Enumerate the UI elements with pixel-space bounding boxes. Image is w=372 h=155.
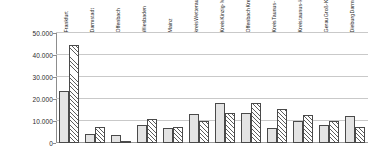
bar-group [160, 33, 186, 143]
category-label-line: Kreis [246, 0, 251, 7]
category-label: Wetterau-kreis [194, 0, 199, 32]
bar-group [82, 33, 108, 143]
bar [251, 103, 261, 143]
bar-group [316, 33, 342, 143]
bar [277, 109, 287, 143]
category-label-cell: Frankfurt [56, 0, 82, 33]
category-label: KreisGroß-Gerau [324, 0, 329, 32]
category-label: Mainz [168, 18, 173, 32]
category-label-cell: Darmstadt [82, 0, 108, 33]
bar-group [134, 33, 160, 143]
category-label-line: kreis [194, 21, 199, 32]
bar [111, 135, 121, 143]
category-label: Wiesbaden [142, 6, 147, 32]
category-label-line: Kreis [298, 20, 303, 32]
y-axis-tick-label: 50.000 [33, 30, 53, 37]
y-axis-tick-mark [53, 143, 56, 144]
bar-group [108, 33, 134, 143]
y-axis-tick-label: 10.000 [33, 118, 53, 125]
category-label-cell: Main-Taunus-Kreis [264, 0, 290, 33]
category-label: KreisOffenbach [246, 0, 251, 32]
category-label-line: Offenbach [116, 8, 121, 32]
category-label: KreisDarmstadt-Dieburg [350, 0, 355, 32]
bar-chart: FrankfurtDarmstadtOffenbachWiesbadenMain… [0, 0, 372, 155]
plot-area [56, 33, 368, 143]
category-label-line: Kreis [324, 0, 329, 3]
category-label-line: Kreis [220, 20, 225, 32]
bar [355, 127, 365, 143]
bar [345, 116, 355, 143]
bar [199, 121, 209, 143]
category-label-line: Offenbach [246, 8, 251, 32]
category-label-line: Taunus- [272, 1, 277, 20]
category-label-line: Kinzig- [220, 3, 225, 19]
category-label: Offenbach [116, 8, 121, 32]
category-label-line: taunus- [298, 2, 303, 20]
bar [173, 127, 183, 144]
bar [215, 103, 225, 143]
y-axis-tick-label: 20.000 [33, 96, 53, 103]
bar [329, 121, 339, 143]
bar-group [238, 33, 264, 143]
category-label: Frankfurt [64, 11, 69, 32]
category-label-line: Hoch- [298, 0, 303, 1]
category-label-cell: Hoch-taunus-Kreis [290, 0, 316, 33]
category-label-line: Wetterau- [194, 0, 199, 20]
category-label-cell: Wetterau-kreis [186, 0, 212, 33]
category-label-line: Darmstadt- [350, 0, 355, 13]
bar [147, 119, 157, 143]
bar-group [264, 33, 290, 143]
bar-group [342, 33, 368, 143]
bar [95, 127, 105, 143]
bar-group [56, 33, 82, 143]
category-label-line: Frankfurt [64, 11, 69, 32]
category-label: Hoch-taunus-Kreis [298, 0, 303, 32]
category-label-cell: Wiesbaden [134, 0, 160, 33]
bar [137, 125, 147, 143]
category-axis-labels: FrankfurtDarmstadtOffenbachWiesbadenMain… [56, 0, 368, 33]
bar-groups [56, 33, 368, 143]
bar [121, 141, 131, 143]
category-label: Main-Kinzig-Kreis [220, 0, 225, 32]
bar [69, 45, 79, 143]
bar [189, 114, 199, 143]
bar [85, 134, 95, 143]
bar [59, 91, 69, 143]
category-label-line: Main- [220, 0, 225, 3]
bar [163, 128, 173, 143]
bar-group [212, 33, 238, 143]
category-label-line: Gerau [324, 17, 329, 32]
bar [303, 115, 313, 143]
category-label-cell: KreisDarmstadt-Dieburg [342, 0, 368, 33]
category-label: Main-Taunus-Kreis [272, 0, 277, 32]
y-axis-tick-label: 40.000 [33, 52, 53, 59]
bar [293, 121, 303, 143]
bar [241, 113, 251, 143]
category-label-cell: KreisGroß-Gerau [316, 0, 342, 33]
category-label-line: Mainz [168, 18, 173, 32]
category-label-cell: Mainz [160, 0, 186, 33]
bar [319, 125, 329, 143]
bar-group [290, 33, 316, 143]
y-axis-tick-label: 30.000 [33, 74, 53, 81]
bar-group [186, 33, 212, 143]
category-label-cell: Offenbach [108, 0, 134, 33]
bar [225, 113, 235, 143]
category-label-line: Kreis [272, 20, 277, 32]
category-label: Darmstadt [90, 8, 95, 32]
category-label-line: Dieburg [350, 13, 355, 32]
category-label-line: Wiesbaden [142, 6, 147, 32]
category-label-line: Darmstadt [90, 8, 95, 32]
category-label-cell: KreisOffenbach [238, 0, 264, 33]
bar [267, 128, 277, 143]
y-axis-labels: 010.00020.00030.00040.00050.000 [0, 0, 53, 155]
category-label-line: Groß- [324, 3, 329, 17]
category-label-cell: Main-Kinzig-Kreis [212, 0, 238, 33]
